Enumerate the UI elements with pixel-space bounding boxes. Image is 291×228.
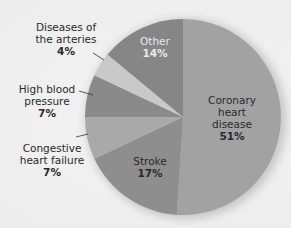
label-hbp: High blood pressure 7%	[14, 83, 80, 119]
label-stroke-line1: Stroke	[133, 155, 166, 167]
label-coronary: Coronary heart disease 51%	[198, 94, 266, 142]
label-arteries-line1: Diseases of	[36, 21, 96, 33]
label-arteries: Diseases of the arteries 4%	[28, 21, 104, 57]
label-other-pct: 14%	[130, 47, 180, 59]
label-hbp-pct: 7%	[14, 107, 80, 119]
label-hbp-line1: High blood	[19, 83, 76, 95]
label-arteries-line2: the arteries	[35, 33, 96, 45]
label-chf: Congestive heart failure 7%	[12, 142, 92, 178]
label-other: Other 14%	[130, 35, 180, 59]
pie-chart: Diseases of the arteries 4% Other 14% Hi…	[0, 0, 291, 228]
label-stroke-pct: 17%	[125, 167, 175, 179]
label-chf-pct: 7%	[12, 166, 92, 178]
label-arteries-pct: 4%	[28, 45, 104, 57]
label-other-line1: Other	[140, 35, 170, 47]
leader-line-chf	[76, 134, 88, 137]
label-hbp-line2: pressure	[24, 95, 69, 107]
label-coronary-line3: disease	[212, 118, 252, 130]
label-coronary-line2: heart	[218, 106, 246, 118]
label-chf-line1: Congestive	[23, 142, 82, 154]
label-stroke: Stroke 17%	[125, 155, 175, 179]
label-coronary-pct: 51%	[198, 130, 266, 142]
label-chf-line2: heart failure	[20, 154, 85, 166]
label-coronary-line1: Coronary	[208, 94, 256, 106]
